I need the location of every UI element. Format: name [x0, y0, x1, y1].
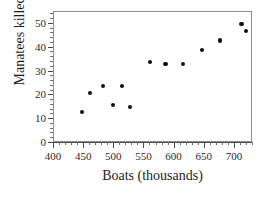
x-tick-major — [174, 142, 175, 148]
x-tick-minor — [149, 142, 150, 145]
x-tick-minor — [95, 142, 96, 145]
x-tick-major — [53, 142, 54, 148]
x-tick-minor — [89, 142, 90, 145]
x-axis — [53, 142, 252, 143]
x-tick-minor — [131, 142, 132, 145]
data-point — [239, 22, 243, 26]
x-tick-minor — [240, 142, 241, 145]
x-tick-minor — [186, 142, 187, 145]
x-tick-label: 600 — [165, 150, 182, 162]
x-tick-minor — [198, 142, 199, 145]
x-tick-minor — [65, 142, 66, 145]
data-point — [128, 105, 132, 109]
plot-area — [53, 11, 252, 142]
x-tick-minor — [125, 142, 126, 145]
x-tick-minor — [107, 142, 108, 145]
x-tick-minor — [228, 142, 229, 145]
y-axis-title: Manatees killed — [12, 0, 28, 103]
x-tick-minor — [246, 142, 247, 145]
x-tick-label: 400 — [45, 150, 62, 162]
data-point — [244, 29, 248, 33]
data-point — [200, 48, 204, 52]
data-points-layer — [54, 12, 251, 141]
data-point — [101, 84, 105, 88]
x-tick-major — [113, 142, 114, 148]
x-tick-minor — [168, 142, 169, 145]
x-tick-minor — [119, 142, 120, 145]
x-tick-minor — [210, 142, 211, 145]
y-tick-label: 0 — [16, 136, 46, 148]
data-point — [148, 60, 152, 64]
scatter-plot-figure: 01020304050 400450500550600650700 Manate… — [0, 0, 265, 199]
x-tick-major — [83, 142, 84, 148]
x-tick-minor — [216, 142, 217, 145]
x-tick-major — [143, 142, 144, 148]
data-point — [111, 103, 115, 107]
y-tick-label: 10 — [16, 112, 46, 124]
x-tick-label: 650 — [196, 150, 213, 162]
y-axis-tick-labels: 01020304050 — [53, 11, 54, 142]
data-point — [218, 38, 222, 42]
data-point — [88, 91, 92, 95]
x-axis-title: Boats (thousands) — [53, 168, 252, 184]
x-tick-major — [204, 142, 205, 148]
x-tick-minor — [101, 142, 102, 145]
x-tick-minor — [71, 142, 72, 145]
data-point — [80, 110, 84, 114]
x-tick-minor — [222, 142, 223, 145]
data-point — [120, 84, 124, 88]
x-tick-major — [234, 142, 235, 148]
x-tick-minor — [137, 142, 138, 145]
data-point — [163, 62, 167, 66]
x-tick-minor — [252, 142, 253, 145]
x-tick-minor — [59, 142, 60, 145]
x-tick-label: 550 — [135, 150, 152, 162]
x-tick-minor — [162, 142, 163, 145]
data-point — [181, 62, 185, 66]
x-tick-label: 450 — [75, 150, 92, 162]
x-tick-minor — [77, 142, 78, 145]
x-tick-minor — [192, 142, 193, 145]
x-axis-tick-labels: 400450500550600650700 — [53, 150, 252, 164]
x-tick-minor — [156, 142, 157, 145]
x-tick-label: 700 — [226, 150, 243, 162]
x-tick-minor — [180, 142, 181, 145]
x-tick-label: 500 — [105, 150, 122, 162]
